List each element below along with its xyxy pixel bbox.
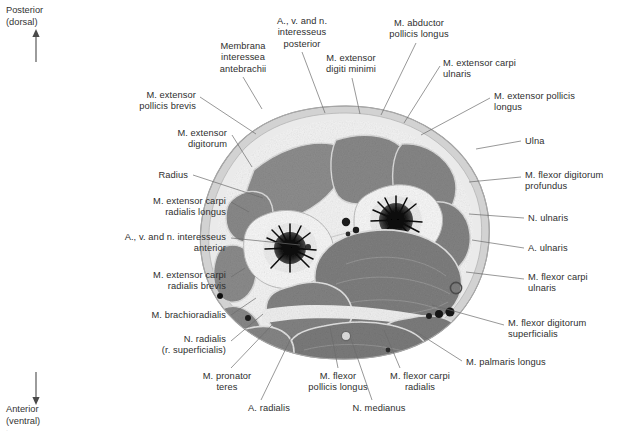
label-m-brachioradialis: M. brachioradialis	[104, 310, 226, 321]
label-m-palmaris-longus: M. palmaris longus	[466, 357, 578, 368]
label-m-flexor-digitorum-profundus: M. flexor digitorum profundus	[525, 170, 622, 193]
label-a-radialis: A. radialis	[238, 403, 300, 414]
label-n-medianus: N. medianus	[341, 403, 417, 414]
label-m-extensor-carpi-radialis-longus: M. extensor carpi radialis longus	[94, 196, 226, 219]
arrow-down-icon	[28, 372, 44, 406]
label-n-radialis-r-superficialis: N. radialis (r. superficialis)	[132, 334, 226, 357]
label-ulna: Ulna	[525, 136, 565, 147]
label-m-flexor-carpi-radialis: M. flexor carpi radialis	[374, 371, 466, 394]
orientation-anterior-line1: Anterior	[6, 404, 86, 416]
label-m-extensor-carpi-radialis-brevis: M. extensor carpi radialis brevis	[96, 270, 226, 293]
arrow-up-icon	[28, 28, 44, 62]
label-a-v-n-interosseus-posterior: A., v. and n. interesseus posterior	[258, 16, 346, 50]
label-m-abductor-pollicis-longus: M. abductor pollicis longus	[375, 18, 463, 41]
orientation-anterior-line2: (ventral)	[6, 416, 86, 428]
label-a-v-n-interosseus-anterior: A., v. and n. interesseus anterior	[68, 232, 226, 255]
figure-caption: ·	[6, 427, 306, 433]
label-m-pronator-teres: M. pronator teres	[189, 371, 265, 394]
label-radius: Radius	[140, 170, 188, 181]
label-m-extensor-digiti-minimi: M. extensor digiti minimi	[310, 53, 392, 76]
orientation-posterior: Posterior (dorsal)	[6, 5, 86, 28]
label-m-extensor-pollicis-brevis: M. extensor pollicis brevis	[88, 90, 196, 113]
label-m-extensor-pollicis-longus: M. extensor pollicis longus	[494, 91, 610, 114]
forearm-cross-section-image	[196, 104, 496, 362]
label-n-ulnaris: N. ulnaris	[528, 213, 588, 224]
label-m-extensor-digitorum: M. extensor digitorum	[129, 128, 227, 151]
figure-canvas: Posterior (dorsal) Anterior (ventral)	[0, 0, 622, 434]
label-m-extensor-carpi-ulnaris: M. extensor carpi ulnaris	[443, 58, 547, 81]
label-m-flexor-digitorum-superficialis: M. flexor digitorum superficialis	[508, 318, 622, 341]
label-m-flexor-pollicis-longus: M. flexor pollicis longus	[294, 371, 382, 394]
orientation-posterior-line1: Posterior	[6, 5, 86, 17]
orientation-posterior-line2: (dorsal)	[6, 17, 86, 29]
label-m-flexor-carpi-ulnaris: M. flexor carpi ulnaris	[528, 272, 622, 295]
orientation-anterior: Anterior (ventral)	[6, 404, 86, 427]
label-a-ulnaris: A. ulnaris	[528, 243, 588, 254]
